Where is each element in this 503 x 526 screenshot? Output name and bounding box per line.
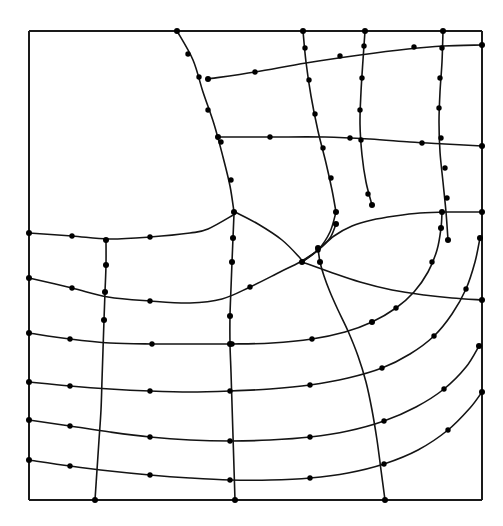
mesh-midside-node [196, 74, 201, 79]
mesh-corner-node [362, 28, 368, 34]
mesh-midside-node [419, 140, 424, 145]
mesh-canvas [0, 0, 503, 526]
mesh-edge [29, 238, 480, 392]
mesh-corner-node [229, 259, 235, 265]
mesh-midside-node [67, 423, 72, 428]
mesh-edge [235, 212, 302, 262]
mesh-corner-node [26, 417, 32, 423]
mesh-midside-node [439, 45, 444, 50]
mesh-corner-node [26, 330, 32, 336]
mesh-corner-node [26, 379, 32, 385]
mesh-corner-node [101, 317, 107, 323]
mesh-edge [230, 214, 235, 500]
mesh-midside-node [228, 177, 233, 182]
mesh-edge [29, 214, 235, 239]
mesh-edge [95, 240, 106, 500]
mesh-corner-node [445, 237, 451, 243]
mesh-corner-node [479, 143, 485, 149]
mesh-midside-node [441, 386, 446, 391]
mesh-midside-node [359, 75, 364, 80]
mesh-midside-node [147, 434, 152, 439]
mesh-midside-node [437, 75, 442, 80]
mesh-corner-node [227, 313, 233, 319]
mesh-edge [29, 212, 442, 344]
mesh-edge [302, 262, 482, 300]
mesh-midside-node [442, 165, 447, 170]
mesh-edge [360, 31, 372, 205]
mesh-midside-node [393, 305, 398, 310]
mesh-corner-node [438, 225, 444, 231]
mesh-midside-node [328, 175, 333, 180]
mesh-midside-node [302, 45, 307, 50]
mesh-corner-node [231, 209, 237, 215]
mesh-midside-node [67, 383, 72, 388]
mesh-edge [302, 212, 482, 262]
mesh-corner-node [26, 230, 32, 236]
mesh-midside-node [185, 51, 190, 56]
mesh-midside-node [365, 191, 370, 196]
mesh-corner-node [205, 76, 211, 82]
mesh-midside-node [147, 388, 152, 393]
mesh-corner-node [369, 319, 375, 325]
mesh-node-layer [26, 28, 485, 503]
mesh-midside-node [147, 472, 152, 477]
mesh-corner-node [227, 341, 233, 347]
mesh-corner-node [479, 389, 485, 395]
mesh-midside-node [436, 105, 441, 110]
mesh-midside-node [149, 341, 154, 346]
mesh-corner-node [232, 497, 238, 503]
mesh-corner-node [26, 275, 32, 281]
mesh-midside-node [227, 438, 232, 443]
mesh-midside-node [67, 336, 72, 341]
mesh-midside-node [320, 145, 325, 150]
mesh-midside-node [147, 234, 152, 239]
mesh-corner-node [215, 134, 221, 140]
mesh-corner-node [477, 235, 483, 241]
mesh-midside-node [438, 135, 443, 140]
mesh-corner-node [440, 28, 446, 34]
mesh-midside-node [227, 388, 232, 393]
mesh-midside-node [357, 107, 362, 112]
mesh-corner-node [26, 457, 32, 463]
mesh-midside-node [147, 298, 152, 303]
mesh-corner-node [299, 259, 305, 265]
mesh-corner-node [439, 209, 445, 215]
mesh-midside-node [379, 365, 384, 370]
mesh-midside-node [227, 477, 232, 482]
mesh-midside-node [381, 461, 386, 466]
mesh-midside-node [307, 475, 312, 480]
mesh-midside-node [431, 333, 436, 338]
mesh-corner-node [317, 259, 323, 265]
mesh-corner-node [230, 235, 236, 241]
mesh-corner-node [333, 209, 339, 215]
mesh-midside-node [67, 463, 72, 468]
mesh-midside-node [337, 53, 342, 58]
mesh-corner-node [92, 497, 98, 503]
mesh-midside-node [306, 77, 311, 82]
mesh-corner-node [479, 209, 485, 215]
mesh-edge [29, 346, 479, 441]
mesh-midside-node [252, 69, 257, 74]
mesh-midside-node [347, 135, 352, 140]
mesh-midside-node [69, 233, 74, 238]
mesh-corner-node [300, 28, 306, 34]
mesh-midside-node [361, 43, 366, 48]
mesh-corner-node [174, 28, 180, 34]
mesh-midside-node [411, 44, 416, 49]
mesh-midside-node [205, 107, 210, 112]
mesh-corner-node [479, 297, 485, 303]
mesh-edge [303, 31, 336, 212]
mesh-midside-node [247, 284, 252, 289]
mesh-corner-node [479, 42, 485, 48]
mesh-midside-node [307, 434, 312, 439]
mesh-edge-layer [29, 31, 482, 500]
mesh-corner-node [333, 221, 339, 227]
mesh-corner-node [476, 343, 482, 349]
mesh-corner-node [382, 497, 388, 503]
mesh-midside-node [463, 286, 468, 291]
mesh-corner-node [102, 289, 108, 295]
mesh-midside-node [445, 427, 450, 432]
mesh-midside-node [307, 382, 312, 387]
mesh-midside-node [309, 336, 314, 341]
mesh-midside-node [267, 134, 272, 139]
